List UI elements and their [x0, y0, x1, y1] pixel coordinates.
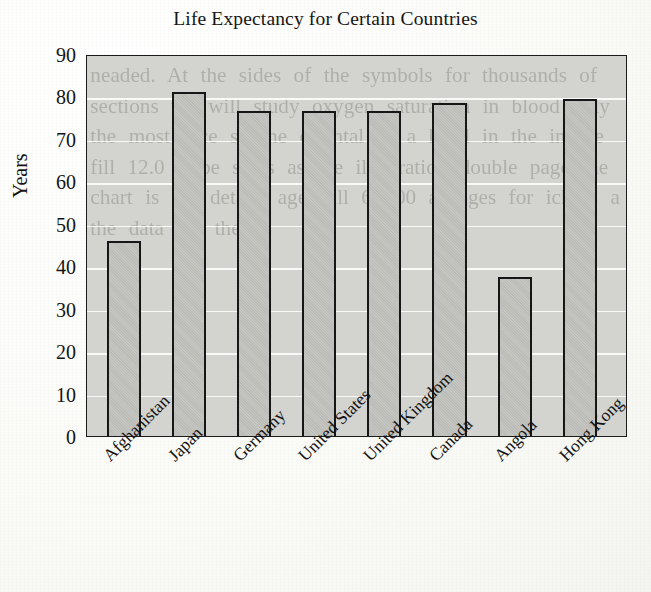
y-axis-tick-label: 80: [56, 87, 76, 107]
chart-title: Life Expectancy for Certain Countries: [0, 8, 651, 30]
plot-area: neaded. At the sides of the symbols for …: [86, 55, 627, 437]
y-axis-tick-label: 90: [56, 45, 76, 65]
bar: [302, 111, 336, 436]
y-axis-title: Years: [9, 153, 32, 198]
y-axis-tick-label: 60: [56, 172, 76, 192]
bar: [498, 277, 532, 436]
y-axis-tick-label: 10: [56, 385, 76, 405]
y-axis-tick-label: 20: [56, 342, 76, 362]
bar: [367, 111, 401, 436]
bars-layer: [87, 56, 626, 436]
x-axis: AfghanistanJapanGermanyUnited StatesUnit…: [0, 437, 651, 592]
y-axis-tick-label: 70: [56, 130, 76, 150]
bar: [563, 99, 597, 436]
bar: [237, 111, 271, 436]
bar: [107, 241, 141, 436]
bar: [172, 92, 206, 436]
y-axis-tick-label: 40: [56, 257, 76, 277]
y-axis-tick-label: 50: [56, 215, 76, 235]
y-axis-tick-label: 30: [56, 300, 76, 320]
